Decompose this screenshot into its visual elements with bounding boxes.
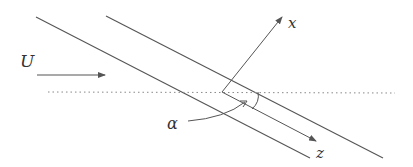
upper-wall-line	[106, 16, 383, 158]
lower-wall-line	[36, 17, 310, 158]
inclined-channel-diagram: U x z α	[0, 0, 413, 167]
alpha-pointer-arrow-icon	[188, 102, 245, 121]
flow-velocity-label: U	[20, 51, 35, 71]
angle-alpha-label: α	[167, 114, 178, 133]
x-axis-arrow-icon	[222, 17, 282, 92]
z-axis-label: z	[315, 144, 324, 162]
horizontal-reference-dotted-line	[48, 92, 395, 93]
x-axis-label: x	[288, 14, 297, 32]
angle-arc-icon	[252, 92, 258, 109]
